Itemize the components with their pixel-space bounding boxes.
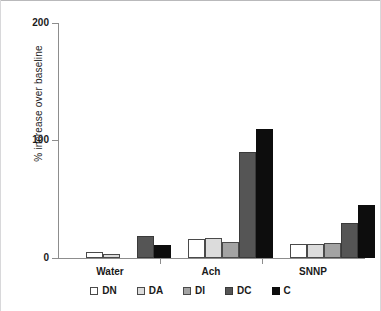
legend-swatch-di-icon: [183, 287, 191, 295]
bar-chart-figure: % increase over baseline 200 100 0 Water…: [0, 0, 381, 311]
legend-item-c[interactable]: C: [272, 286, 291, 296]
x-axis-line: [58, 258, 365, 259]
bar-ach-da: [205, 238, 222, 258]
bar-water-da: [103, 254, 120, 258]
legend-item-dc[interactable]: DC: [225, 286, 251, 296]
bar-water-dn: [86, 252, 103, 258]
bar-water-dc: [137, 236, 154, 258]
chart-legend: DNDADIDCC: [0, 286, 381, 296]
bar-snnp-dn: [290, 244, 307, 258]
bar-ach-c: [256, 129, 273, 258]
legend-item-dn[interactable]: DN: [90, 286, 116, 296]
legend-label-da: DA: [149, 286, 163, 296]
bar-water-c: [154, 245, 171, 258]
legend-item-di[interactable]: DI: [183, 286, 205, 296]
y-tick-100: [52, 140, 59, 141]
legend-label-dn: DN: [102, 286, 116, 296]
legend-swatch-c-icon: [272, 287, 280, 295]
x-category-label-ach: Ach: [156, 266, 266, 277]
y-tick-label-0: 0: [9, 253, 49, 263]
x-axis-group-separator: [262, 259, 263, 264]
y-tick-200: [52, 23, 59, 24]
y-tick-label-100: 100: [9, 135, 49, 145]
legend-swatch-dc-icon: [225, 287, 233, 295]
y-tick-label-200: 200: [9, 18, 49, 28]
x-category-label-water: Water: [55, 266, 165, 277]
legend-swatch-dn-icon: [90, 287, 98, 295]
legend-label-di: DI: [195, 286, 205, 296]
figure-left-border: [0, 0, 1, 311]
figure-top-border: [0, 0, 381, 1]
bar-ach-dn: [188, 239, 205, 258]
bar-snnp-dc: [341, 223, 358, 258]
legend-item-da[interactable]: DA: [137, 286, 163, 296]
bar-ach-dc: [239, 152, 256, 258]
x-axis-group-separator: [160, 259, 161, 264]
x-category-label-snnp: SNNP: [258, 266, 368, 277]
bar-snnp-da: [307, 244, 324, 258]
bar-ach-di: [222, 242, 239, 258]
bar-snnp-c: [358, 205, 375, 258]
legend-swatch-da-icon: [137, 287, 145, 295]
bar-snnp-di: [324, 243, 341, 258]
plot-area: [59, 23, 364, 258]
legend-label-dc: DC: [237, 286, 251, 296]
y-axis-title: % increase over baseline: [33, 9, 44, 199]
legend-label-c: C: [284, 286, 291, 296]
